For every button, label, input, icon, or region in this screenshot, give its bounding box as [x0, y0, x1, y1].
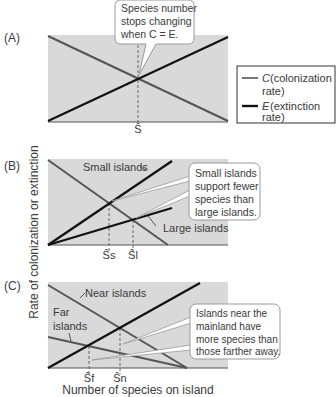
island-biogeography-figure: Rate of colonization or extinction (A) Ŝ…	[0, 0, 336, 397]
callout-c-line-3: more species than	[196, 334, 278, 345]
callout-c-line-2: mainland have	[196, 321, 261, 332]
line-label-far-islands-1: Far	[53, 306, 70, 318]
legend-extinction-text-2: rate)	[262, 111, 285, 123]
line-label-small-islands: Small islands	[83, 161, 148, 173]
equilibrium-label-small: Ŝs	[103, 249, 116, 261]
callout-a-line-2: stops changing	[121, 15, 192, 27]
callout-b-line-1: Small islands	[195, 167, 257, 179]
legend-colonization-text: (colonization	[270, 72, 332, 84]
panel-label-c: (C)	[4, 279, 21, 293]
legend-colonization-symbol: C	[262, 72, 270, 84]
callout-a-line-1: Species number	[121, 2, 197, 14]
line-label-large-islands: Large islands	[163, 222, 229, 234]
legend: C (colonization rate) E (extinction rate…	[237, 66, 335, 123]
callout-c-line-1: Islands near the	[196, 308, 268, 319]
callout-a-line-3: when C = E.	[120, 28, 179, 40]
callout-c-line-4: those farther away.	[196, 346, 280, 357]
y-axis-label: Rate of colonization or extinction	[27, 145, 41, 318]
panel-b: (B) Small islands Large islands Ŝs Ŝl Sm…	[4, 159, 260, 261]
legend-colonization-text-2: rate)	[262, 85, 285, 97]
panel-label-a: (A)	[4, 31, 20, 45]
equilibrium-label-large: Ŝl	[128, 249, 138, 261]
x-axis-label: Number of species on island	[62, 383, 213, 397]
callout-b-line-4: large islands.	[195, 206, 257, 218]
panel-label-b: (B)	[4, 159, 20, 173]
equilibrium-label-s: Ŝ	[134, 123, 141, 135]
line-label-near-islands: Near islands	[85, 287, 147, 299]
callout-b-line-2: support fewer	[195, 180, 259, 192]
callout-b-line-3: species than	[195, 193, 254, 205]
panel-c: (C) Near islands Far islands Ŝf Ŝn Islan…	[4, 279, 280, 384]
panel-a: (A) Ŝ Species number stops changing when…	[4, 0, 335, 135]
line-label-far-islands-2: islands	[53, 320, 88, 332]
